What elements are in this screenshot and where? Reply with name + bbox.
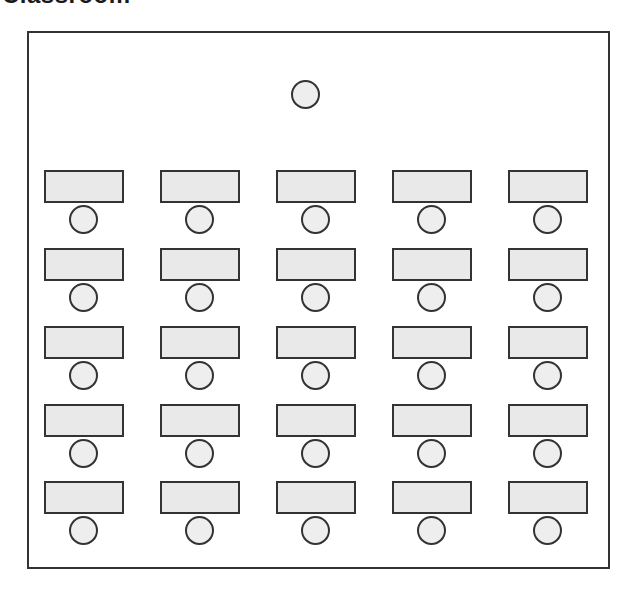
student-seat-icon [69,205,98,234]
student-desk [276,170,356,203]
student-desk [44,481,124,514]
student-seat-icon [185,361,214,390]
student-seat-icon [185,439,214,468]
student-desk [508,404,588,437]
student-seat-icon [301,439,330,468]
student-seat-icon [185,516,214,545]
student-desk [508,326,588,359]
student-seat-icon [69,439,98,468]
student-desk [44,326,124,359]
student-desk [392,481,472,514]
student-desk [276,481,356,514]
student-desk [160,326,240,359]
student-seat-icon [69,361,98,390]
student-seat-icon [533,516,562,545]
student-desk [44,404,124,437]
student-seat-icon [69,516,98,545]
student-desk [44,248,124,281]
student-desk [508,248,588,281]
student-seat-icon [69,283,98,312]
student-desk [160,404,240,437]
student-seat-icon [301,516,330,545]
student-seat-icon [533,361,562,390]
student-desk [392,248,472,281]
student-desk [276,326,356,359]
student-desk [392,326,472,359]
student-desk [160,170,240,203]
student-seat-icon [533,439,562,468]
student-seat-icon [417,516,446,545]
student-seat-icon [533,205,562,234]
student-desk [392,404,472,437]
student-seat-icon [301,205,330,234]
student-desk [392,170,472,203]
student-seat-icon [185,283,214,312]
student-seat-icon [417,361,446,390]
student-desk [508,170,588,203]
student-seat-icon [533,283,562,312]
student-desk [160,248,240,281]
student-seat-icon [417,205,446,234]
teacher-seat-icon [291,80,320,109]
student-desk [508,481,588,514]
student-seat-icon [185,205,214,234]
student-seat-icon [417,439,446,468]
student-seat-icon [301,283,330,312]
student-desk [276,404,356,437]
student-seat-icon [417,283,446,312]
student-seat-icon [301,361,330,390]
classroom-outline [27,31,610,569]
diagram-title: Classroom [2,0,131,9]
student-desk [44,170,124,203]
student-desk [160,481,240,514]
student-desk [276,248,356,281]
